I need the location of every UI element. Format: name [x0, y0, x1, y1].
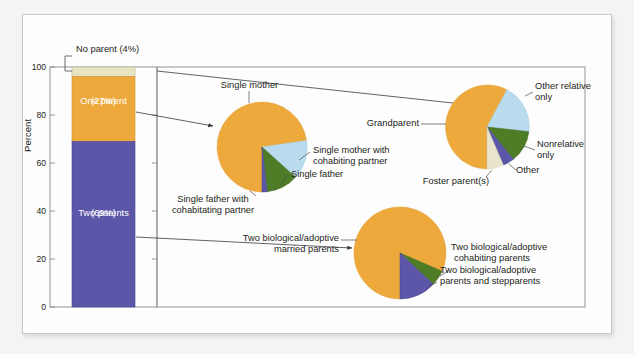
nonrelative-only-line1: Nonrelative	[537, 139, 584, 150]
ytick-0: 0	[22, 302, 46, 312]
y-axis-label: Percent	[22, 119, 33, 152]
no-parent-callout-leader	[65, 56, 72, 71]
ytick-100: 100	[22, 62, 46, 72]
two-bio-cohabiting-line2: cohabiting parents	[454, 253, 550, 264]
ytick-60: 60	[22, 158, 46, 168]
two-bio-stepparents-line1: Two biological/adoptive	[440, 265, 540, 276]
one-parent-label-line2: (27%)	[72, 96, 135, 107]
grandparent-label: Grandparent	[361, 118, 419, 129]
two-bio-married-line2: married parents	[211, 244, 339, 255]
two-bio-married-line1: Two biological/adoptive	[211, 233, 339, 244]
two-bio-married-label: Two biological/adoptive married parents	[211, 233, 339, 255]
nonrelative-only-label: Nonrelative only	[537, 139, 584, 161]
single-father-cohabitating-label: Single father with cohabitating partner	[168, 194, 258, 216]
single-mother-cohabiting-line2: cohabiting partner	[313, 156, 389, 167]
no-parent-label: No parent (4%)	[76, 44, 139, 55]
single-mother-cohabiting-label: Single mother with cohabiting partner	[313, 145, 389, 167]
single-father-label: Single father	[291, 169, 343, 180]
bar-segment-one-parent	[72, 77, 135, 142]
single-mother-cohabiting-line1: Single mother with	[313, 145, 389, 156]
other-relative-only-label: Other relative only	[535, 81, 591, 103]
other-relative-only-line1: Other relative	[535, 81, 591, 92]
foster-parents-label: Foster parent(s)	[411, 176, 489, 187]
ytick-20: 20	[22, 254, 46, 264]
pie-two-parents	[354, 207, 446, 299]
page-background: 100 80 60 40 20 0 Percent No parent (4%)…	[0, 0, 634, 354]
bar-segment-no-parent	[72, 67, 135, 77]
single-father-cohabitating-line1: Single father with	[168, 194, 258, 205]
two-bio-stepparents-label: Two biological/adoptive parents and step…	[440, 265, 540, 287]
bar-segment-two-parents	[72, 141, 135, 307]
two-bio-cohabiting-label: Two biological/adoptive cohabiting paren…	[451, 242, 547, 264]
single-father-cohabitating-line2: cohabitating partner	[168, 205, 258, 216]
other-relative-only-line2: only	[535, 92, 591, 103]
other-label: Other	[516, 165, 539, 176]
ytick-40: 40	[22, 206, 46, 216]
two-bio-cohabiting-line1: Two biological/adoptive	[451, 242, 547, 253]
single-mother-label: Single mother	[197, 80, 302, 91]
pie-no-parent	[446, 85, 530, 169]
nonrelative-only-line2: only	[537, 150, 584, 161]
two-parents-label-line2: (69%)	[72, 208, 135, 219]
two-bio-stepparents-line2: parents and stepparents	[440, 276, 540, 287]
